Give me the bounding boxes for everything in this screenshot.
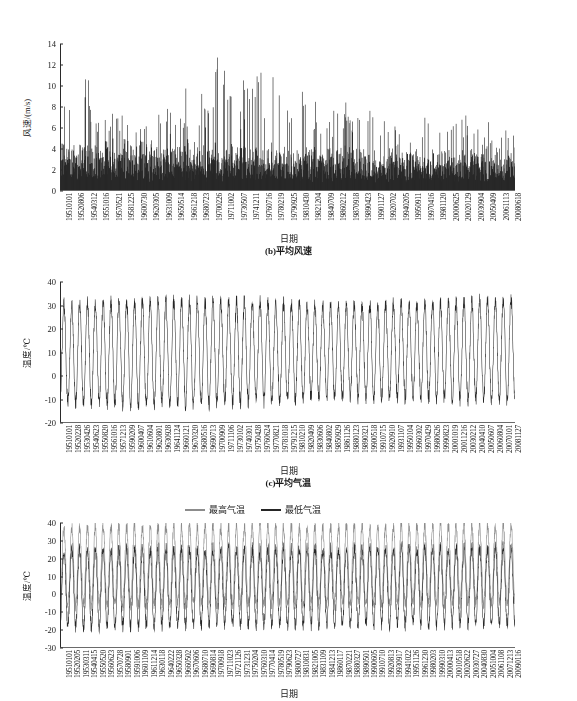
x-tick-label: 19571213 bbox=[120, 425, 127, 453]
y-tick-mark bbox=[60, 86, 63, 87]
figure-max-min-temperature: 最高气温最低气温 温度/℃ -30-20-10010203040 1951010… bbox=[0, 497, 577, 701]
x-tick-label: 19810831 bbox=[303, 650, 310, 678]
y-tick-mark bbox=[60, 612, 63, 613]
x-tick-label: 20020129 bbox=[465, 193, 472, 221]
x-tick-label: 20040410 bbox=[479, 425, 486, 453]
legend-label: 最低气温 bbox=[285, 503, 321, 516]
y-tick-label: 10 bbox=[48, 81, 61, 91]
x-tick-label: 20040830 bbox=[481, 650, 488, 678]
x-tick-label: 19590209 bbox=[129, 425, 136, 453]
figure-average-wind-speed: 风速/(m/s) 02468101214 1951010119520806195… bbox=[0, 4, 577, 254]
x-tick-label: 20070101 bbox=[506, 425, 513, 453]
y-tick-mark bbox=[60, 352, 63, 353]
axes-maxmin: -30-20-10010203040 195101011952020519530… bbox=[60, 523, 515, 648]
x-tick-label: 19901127 bbox=[378, 193, 385, 221]
y-tick-label: 10 bbox=[48, 572, 61, 582]
x-tick-label: 19730507 bbox=[241, 193, 248, 221]
x-tick-label: 19781018 bbox=[282, 425, 289, 453]
y-tick-mark bbox=[60, 107, 63, 108]
x-tick-label: 19700909 bbox=[219, 425, 226, 453]
x-tick-label: 19810210 bbox=[299, 425, 306, 453]
x-tick-label: 20030904 bbox=[478, 193, 485, 221]
legend-item: 最高气温 bbox=[185, 503, 245, 516]
x-tick-label: 19770414 bbox=[269, 650, 276, 678]
x-tick-label: 19850929 bbox=[335, 425, 342, 453]
y-tick-label: -20 bbox=[45, 625, 60, 635]
axes-wind: 02468101214 1951010119520806195403121955… bbox=[60, 44, 515, 191]
x-tick-label: 19520228 bbox=[75, 425, 82, 453]
x-tick-label: 20061113 bbox=[503, 193, 510, 220]
y-tick-label: 20 bbox=[48, 324, 61, 334]
x-tick-label: 19631009 bbox=[166, 193, 173, 221]
x-tick-label: 19970416 bbox=[428, 193, 435, 221]
x-tick-label: 19540415 bbox=[91, 650, 98, 678]
x-tick-label: 19910710 bbox=[379, 650, 386, 678]
y-tick-mark bbox=[60, 65, 63, 66]
legend-swatch bbox=[185, 509, 205, 511]
y-tick-mark bbox=[60, 594, 63, 595]
x-tick-label: 19680723 bbox=[203, 193, 210, 221]
x-tick-label: 19530426 bbox=[84, 425, 91, 453]
x-tick-label: 19980203 bbox=[430, 650, 437, 678]
figure-caption-meantemp: (c)平均气温 bbox=[0, 476, 577, 489]
x-tick-label: 19750428 bbox=[255, 425, 262, 453]
y-tick-mark bbox=[60, 128, 63, 129]
x-tick-label: 19660502 bbox=[185, 650, 192, 678]
x-tick-label: 19620305 bbox=[153, 193, 160, 221]
x-tick-label: 19840709 bbox=[328, 193, 335, 221]
x-tick-label: 19960302 bbox=[416, 425, 423, 453]
x-tick-label: 19770821 bbox=[273, 425, 280, 453]
y-tick-label: 40 bbox=[48, 277, 61, 287]
y-tick-label: 30 bbox=[48, 536, 61, 546]
x-tick-label: 19700226 bbox=[216, 193, 223, 221]
x-tick-label: 19630928 bbox=[165, 425, 172, 453]
y-tick-mark bbox=[60, 44, 63, 45]
y-tick-mark bbox=[60, 170, 63, 171]
x-tick-label: 19690713 bbox=[210, 425, 217, 453]
x-tick-label: 19640222 bbox=[168, 650, 175, 678]
x-tick-label: 19950911 bbox=[415, 193, 422, 221]
x-tick-label: 20050409 bbox=[490, 193, 497, 221]
figure-average-temperature: 温度/℃ -20-10010203040 1951010119520228195… bbox=[0, 258, 577, 495]
x-tick-label: 19890321 bbox=[362, 425, 369, 453]
legend-item: 最低气温 bbox=[261, 503, 321, 516]
y-tick-label: 0 bbox=[52, 589, 60, 599]
mean-temperature-series bbox=[60, 282, 515, 423]
y-axis-title-maxmin: 温度/℃ bbox=[20, 551, 32, 621]
x-tick-label: 19791215 bbox=[291, 425, 298, 453]
x-tick-label: 20071213 bbox=[507, 650, 514, 678]
x-tick-label: 19581225 bbox=[128, 193, 135, 221]
x-tick-label: 20010518 bbox=[456, 650, 463, 678]
x-tick-label: 19860212 bbox=[340, 193, 347, 221]
x-tick-label: 19920910 bbox=[389, 425, 396, 453]
x-tick-label: 19841213 bbox=[329, 650, 336, 678]
y-tick-label: 14 bbox=[48, 39, 61, 49]
x-tick-label: 19940205 bbox=[403, 193, 410, 221]
x-tick-label: 19740301 bbox=[246, 425, 253, 453]
x-tick-label: 19540312 bbox=[91, 193, 98, 221]
x-tick-label: 19550820 bbox=[102, 425, 109, 453]
x-tick-label: 19730102 bbox=[237, 425, 244, 453]
x-tick-label: 19580901 bbox=[125, 650, 132, 678]
x-tick-label: 19980626 bbox=[434, 425, 441, 453]
x-tick-label: 19711002 bbox=[228, 193, 235, 221]
x-tick-label: 19950104 bbox=[407, 425, 414, 453]
y-tick-label: 12 bbox=[48, 60, 61, 70]
y-tick-label: 40 bbox=[48, 518, 61, 528]
x-tick-label: 19821005 bbox=[312, 650, 319, 678]
x-tick-label: 19890423 bbox=[365, 193, 372, 221]
x-tick-label: 19510101 bbox=[66, 425, 73, 453]
x-tick-label: 19611214 bbox=[151, 650, 158, 678]
y-tick-label: 0 bbox=[52, 371, 60, 381]
x-tick-label: 19880123 bbox=[353, 425, 360, 453]
x-tick-label: 19931107 bbox=[398, 425, 405, 453]
x-tick-label: 19920702 bbox=[390, 193, 397, 221]
x-tick-label: 20051004 bbox=[490, 650, 497, 678]
x-tick-label: 20030212 bbox=[470, 425, 477, 453]
y-tick-mark bbox=[60, 630, 63, 631]
x-tick-label: 19570521 bbox=[116, 193, 123, 221]
x-tick-label: 19790623 bbox=[286, 650, 293, 678]
y-tick-label: 8 bbox=[52, 102, 60, 112]
y-tick-mark bbox=[60, 376, 63, 377]
x-tick-label: 19630118 bbox=[159, 650, 166, 678]
